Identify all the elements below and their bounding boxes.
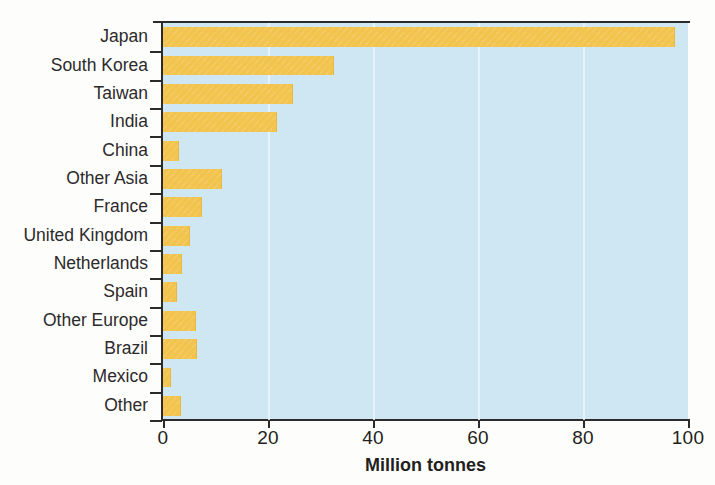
bar-spain (163, 282, 177, 302)
bar-brazil (163, 339, 197, 359)
bar-south-korea (163, 56, 334, 76)
plot-area (163, 23, 688, 420)
y-tick-11 (150, 363, 162, 365)
y-tick-8 (150, 278, 162, 280)
y-tick-9 (150, 307, 162, 309)
category-label-netherlands: Netherlands (0, 253, 148, 274)
x-axis-line (161, 419, 690, 421)
category-label-japan: Japan (0, 26, 148, 47)
bar-india (163, 112, 277, 132)
bar-other (163, 396, 181, 416)
y-tick-3 (150, 136, 162, 138)
plot-top-border (153, 21, 690, 23)
category-label-india: India (0, 111, 148, 132)
category-label-brazil: Brazil (0, 338, 148, 359)
category-label-south-korea: South Korea (0, 55, 148, 76)
gridline-80 (583, 23, 585, 420)
bar-taiwan (163, 84, 293, 104)
bar-other-asia (163, 169, 222, 189)
x-tick-label-80: 80 (553, 427, 613, 449)
x-tick-label-20: 20 (238, 427, 298, 449)
y-tick-0 (150, 51, 162, 53)
y-tick-10 (150, 335, 162, 337)
y-tick-7 (150, 250, 162, 252)
bar-netherlands (163, 254, 182, 274)
gridline-60 (478, 23, 480, 420)
y-tick-6 (150, 222, 162, 224)
y-tick-12 (150, 392, 162, 394)
bar-mexico (163, 368, 171, 388)
y-tick-4 (150, 165, 162, 167)
bar-france (163, 197, 202, 217)
x-tick-label-40: 40 (343, 427, 403, 449)
category-label-mexico: Mexico (0, 366, 148, 387)
gridline-20 (268, 23, 270, 420)
y-tick-5 (150, 193, 162, 195)
x-tick-label-100: 100 (658, 427, 715, 449)
bar-chart: JapanSouth KoreaTaiwanIndiaChinaOther As… (0, 0, 715, 485)
y-tick-13 (150, 420, 162, 422)
category-label-taiwan: Taiwan (0, 83, 148, 104)
y-tick-1 (150, 80, 162, 82)
category-label-france: France (0, 196, 148, 217)
category-label-united-kingdom: United Kingdom (0, 225, 148, 246)
category-label-other-europe: Other Europe (0, 310, 148, 331)
category-label-other-asia: Other Asia (0, 168, 148, 189)
x-tick-label-60: 60 (448, 427, 508, 449)
bar-japan (163, 27, 675, 47)
bar-china (163, 141, 179, 161)
y-tick-2 (150, 108, 162, 110)
x-tick-label-0: 0 (133, 427, 193, 449)
gridline-40 (373, 23, 375, 420)
bar-united-kingdom (163, 226, 190, 246)
category-label-china: China (0, 140, 148, 161)
x-axis-title: Million tonnes (163, 455, 688, 476)
bar-other-europe (163, 311, 196, 331)
category-label-spain: Spain (0, 281, 148, 302)
category-label-other: Other (0, 395, 148, 416)
